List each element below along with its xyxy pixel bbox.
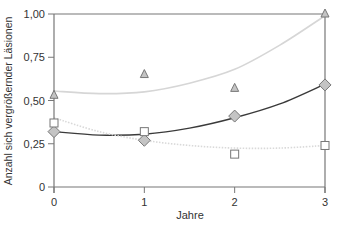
square-marker-icon [321, 141, 329, 149]
y-tick-label: 0,25 [24, 138, 45, 150]
square-fit-curve [54, 118, 325, 149]
axes [54, 14, 325, 193]
fit-curves [54, 16, 325, 149]
y-axis-label: Anzahl sich vergrößernder Läsionen [2, 17, 14, 186]
y-tick-label: 0,50 [24, 95, 45, 107]
line-chart: 00,250,500,751,00 0123 Jahre Anzahl sich… [0, 0, 339, 226]
x-tick-label: 3 [322, 196, 328, 208]
triangle-fit-curve [54, 16, 325, 94]
square-marker-icon [231, 150, 239, 158]
diamond-fit-curve [54, 84, 325, 135]
diamond-marker-icon [319, 79, 331, 91]
x-tick-label: 2 [232, 196, 238, 208]
x-tick-label: 0 [51, 196, 57, 208]
x-axis-label: Jahre [176, 209, 204, 221]
y-tick-label: 0 [39, 181, 45, 193]
triangle-marker-icon [231, 83, 239, 91]
square-marker-icon [50, 119, 58, 127]
x-tick-label: 1 [141, 196, 147, 208]
y-tick-label: 0,75 [24, 51, 45, 63]
y-axis-ticks: 00,250,500,751,00 [24, 8, 54, 193]
square-marker-icon [140, 128, 148, 136]
triangle-marker-icon [140, 70, 148, 78]
y-tick-label: 1,00 [24, 8, 45, 20]
diamond-marker-icon [229, 110, 241, 122]
triangle-marker-icon [321, 9, 329, 17]
x-axis-ticks: 0123 [51, 187, 328, 208]
